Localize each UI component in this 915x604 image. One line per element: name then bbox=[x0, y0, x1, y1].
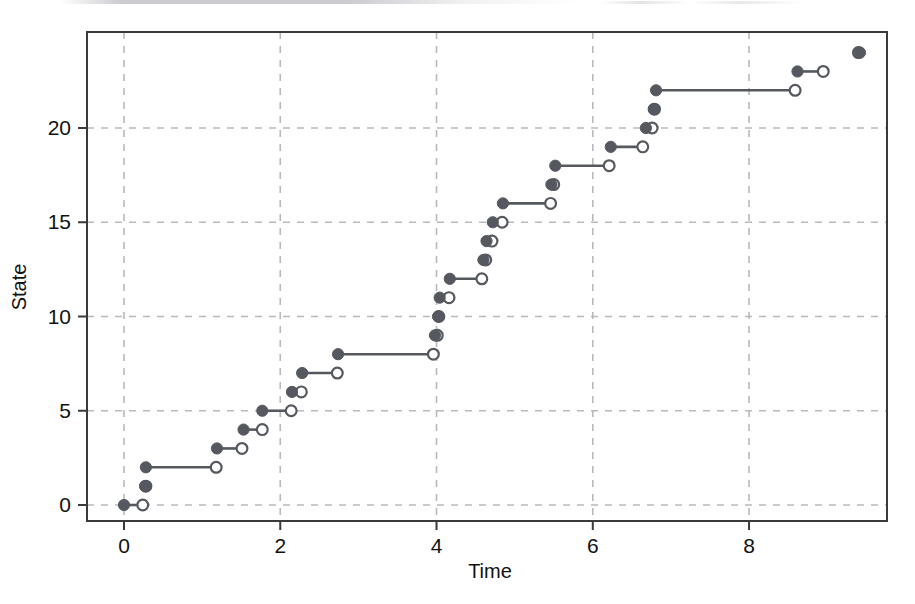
open-circle-marker bbox=[257, 424, 268, 435]
filled-circle-marker bbox=[140, 462, 151, 473]
y-tick-label: 0 bbox=[59, 493, 71, 516]
filled-circle-marker bbox=[481, 236, 492, 247]
y-tick-label: 10 bbox=[48, 305, 71, 328]
filled-circle-marker bbox=[332, 349, 343, 360]
filled-circle-marker bbox=[434, 292, 445, 303]
x-tick-label: 2 bbox=[274, 534, 286, 557]
filled-circle-marker bbox=[238, 424, 249, 435]
open-circle-marker bbox=[428, 349, 439, 360]
step-segment bbox=[487, 217, 507, 228]
y-tick-label: 5 bbox=[59, 399, 71, 422]
step-segment bbox=[648, 104, 660, 115]
open-circle-marker bbox=[476, 273, 487, 284]
filled-circle-marker bbox=[650, 85, 661, 96]
open-circle-marker bbox=[790, 85, 801, 96]
filled-circle-marker bbox=[118, 499, 129, 510]
filled-circle-marker bbox=[550, 160, 561, 171]
filled-circle-marker bbox=[286, 386, 297, 397]
filled-circle-marker bbox=[257, 405, 268, 416]
filled-circle-marker bbox=[297, 367, 308, 378]
step-segment bbox=[286, 386, 306, 397]
y-tick-label: 15 bbox=[48, 210, 71, 233]
open-circle-marker bbox=[332, 368, 343, 379]
filled-circle-marker bbox=[648, 104, 659, 115]
open-circle-marker bbox=[818, 66, 829, 77]
step-segment bbox=[434, 292, 454, 303]
step-segment bbox=[139, 481, 151, 492]
step-segment bbox=[546, 179, 559, 190]
x-tick-label: 0 bbox=[118, 534, 130, 557]
filled-circle-marker bbox=[444, 273, 455, 284]
step-segment bbox=[853, 47, 866, 58]
filled-circle-marker bbox=[432, 311, 443, 322]
filled-circle-marker bbox=[605, 141, 616, 152]
chart-canvas: 02468 05101520 Time State bbox=[0, 0, 915, 604]
open-circle-marker bbox=[237, 443, 248, 454]
open-circle-marker bbox=[545, 198, 556, 209]
step-segment bbox=[481, 236, 497, 247]
open-circle-marker bbox=[211, 462, 222, 473]
open-circle-marker bbox=[637, 141, 648, 152]
x-tick-label: 8 bbox=[743, 534, 755, 557]
filled-circle-marker bbox=[487, 217, 498, 228]
filled-circle-marker bbox=[429, 330, 440, 341]
x-tick-label: 4 bbox=[431, 534, 443, 557]
filled-circle-marker bbox=[792, 66, 803, 77]
step-segment bbox=[432, 311, 444, 322]
step-segment bbox=[478, 254, 491, 265]
filled-circle-marker bbox=[139, 481, 150, 492]
open-circle-marker bbox=[604, 160, 615, 171]
open-circle-marker bbox=[286, 405, 297, 416]
filled-circle-marker bbox=[854, 47, 865, 58]
filled-circle-marker bbox=[640, 122, 651, 133]
y-axis-title: State bbox=[8, 264, 30, 311]
filled-circle-marker bbox=[211, 443, 222, 454]
filled-circle-marker bbox=[546, 179, 557, 190]
x-tick-label: 6 bbox=[587, 534, 599, 557]
filled-circle-marker bbox=[478, 254, 489, 265]
open-circle-marker bbox=[137, 500, 148, 511]
step-segment bbox=[640, 122, 657, 133]
filled-circle-marker bbox=[497, 198, 508, 209]
y-tick-label: 20 bbox=[48, 116, 71, 139]
x-axis-title: Time bbox=[468, 560, 512, 582]
step-segment bbox=[429, 330, 442, 341]
step-plot-figure: 02468 05101520 Time State bbox=[0, 0, 915, 604]
